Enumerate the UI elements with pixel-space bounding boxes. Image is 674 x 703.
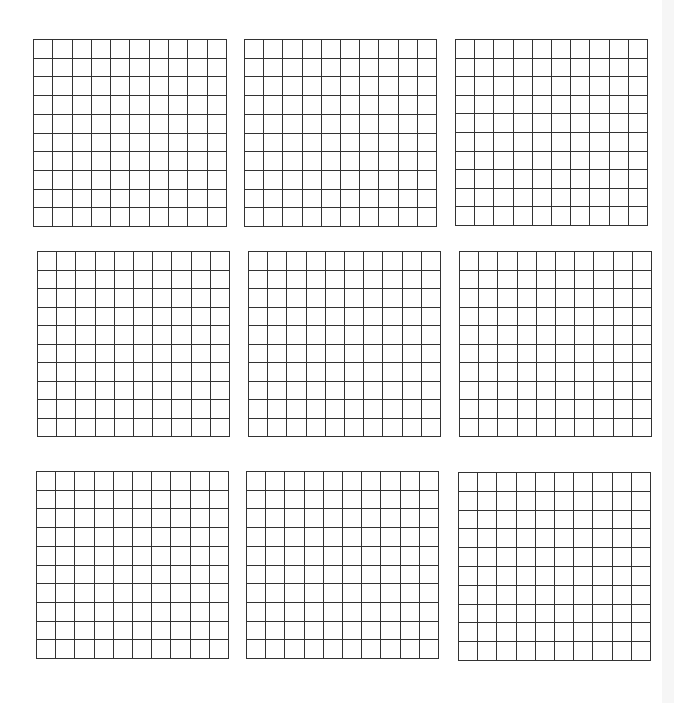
grid-cell [381,584,400,603]
grid-cell [95,491,114,510]
grid-8 [246,471,439,659]
grid-cell [326,289,345,308]
grid-cell [322,59,341,78]
grid-cell [478,567,497,586]
grid-cell [37,472,56,491]
grid-cell [362,566,381,585]
grid-cell [211,308,230,327]
grid-cell [111,134,130,153]
grid-cell [420,622,439,641]
grid-cell [479,400,498,419]
grid-cell [345,308,364,327]
grid-cell [305,640,324,659]
grid-cell [283,134,302,153]
grid-cell [111,171,130,190]
grid-cell [268,400,287,419]
grid-cell [479,308,498,327]
grid-cell [249,308,268,327]
grid-cell [590,170,609,189]
grid-cell [34,171,53,190]
grid-cell [590,207,609,226]
grid-cell [153,419,172,438]
grid-cell [381,509,400,528]
grid-cell [590,40,609,59]
grid-cell [152,472,171,491]
grid-cell [38,252,57,271]
grid-cell [191,566,210,585]
grid-cell [422,382,441,401]
grid-cell [362,547,381,566]
grid-cell [613,623,632,642]
grid-cell [629,114,648,133]
grid-cell [422,289,441,308]
grid-cell [38,382,57,401]
grid-cell [191,547,210,566]
grid-cell [169,208,188,227]
grid-cell [192,419,211,438]
grid-cell [249,345,268,364]
grid-cell [364,289,383,308]
grid-cell [610,152,629,171]
grid-cell [574,473,593,492]
grid-cell [211,400,230,419]
grid-cell [134,271,153,290]
grid-cell [537,326,556,345]
grid-cell [211,419,230,438]
grid-cell [364,419,383,438]
grid-cell [478,529,497,548]
grid-cell [264,96,283,115]
grid-cell [478,642,497,661]
grid-cell [556,363,575,382]
grid-cell [76,252,95,271]
grid-cell [575,345,594,364]
grid-cell [574,511,593,530]
grid-cell [266,491,285,510]
grid-cell [459,529,478,548]
grid-cell [379,190,398,209]
grid-cell [34,134,53,153]
grid-cell [34,40,53,59]
grid-cell [76,345,95,364]
grid-cell [38,271,57,290]
grid-cell [73,134,92,153]
grid-cell [111,190,130,209]
grid-cell [208,115,227,134]
grid-4 [37,251,230,437]
grid-cell [575,289,594,308]
grid-cell [53,190,72,209]
grid-cell [364,271,383,290]
grid-cell [95,584,114,603]
grid-cell [633,308,652,327]
grid-cell [130,40,149,59]
grid-cell [192,326,211,345]
grid-cell [574,605,593,624]
grid-cell [475,114,494,133]
grid-cell [571,96,590,115]
grid-cell [152,566,171,585]
grid-cell [96,289,115,308]
grid-cell [341,77,360,96]
grid-cell [403,419,422,438]
grid-cell [96,326,115,345]
grid-cell [245,134,264,153]
grid-cell [478,586,497,605]
grid-cell [305,566,324,585]
grid-cell [285,603,304,622]
grid-cell [34,77,53,96]
grid-cell [324,622,343,641]
grid-cell [322,40,341,59]
grid-cell [283,171,302,190]
grid-cell [115,308,134,327]
grid-cell [134,289,153,308]
grid-cell [460,271,479,290]
grid-cell [362,472,381,491]
grid-cell [574,623,593,642]
grid-cell [133,528,152,547]
grid-cell [133,491,152,510]
grid-cell [633,382,652,401]
grid-cell [537,400,556,419]
grid-cell [613,492,632,511]
grid-cell [191,509,210,528]
grid-cell [111,96,130,115]
grid-cell [287,419,306,438]
